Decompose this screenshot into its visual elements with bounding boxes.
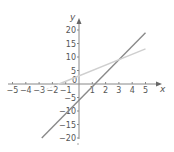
x-tick-label: −4 [20,86,32,95]
y-tick-label: 15 [66,40,76,49]
axes [8,18,162,145]
stray-dot [77,143,79,145]
y-tick-label: −15 [59,121,76,130]
x-tick-label: −5 [7,86,19,95]
x-tick-label: 5 [143,86,148,95]
x-tick-label: 3 [116,86,121,95]
x-axis-label: x [159,84,166,94]
y-tick-label: 20 [66,26,76,35]
x-tick-label: 2 [103,86,108,95]
y-tick-label: 10 [66,53,76,62]
x-tick-label: 4 [130,86,135,95]
y-tick-label: −20 [59,134,76,143]
y-tick-label: 5 [71,67,76,76]
y-tick-label: −5 [64,94,76,103]
y-axis-arrow-icon [77,18,82,24]
y-axis-label: y [69,12,76,22]
line-chart: −5−4−3−2−11234520151050−5−10−15−20 x y [0,0,174,152]
x-tick-label: −2 [47,86,59,95]
